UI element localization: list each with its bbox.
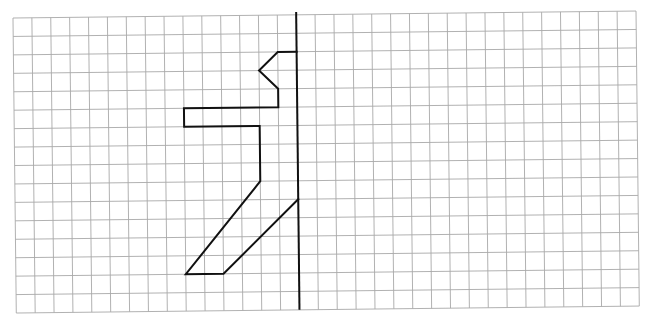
grid-row-line	[14, 140, 637, 147]
grid-paper	[13, 8, 639, 313]
grid-row-line	[13, 29, 636, 36]
grid-row-line	[14, 85, 637, 92]
grid-row-line	[14, 103, 637, 110]
grid-row-line	[13, 48, 636, 55]
grid-row-line	[16, 288, 639, 295]
grid-row-line	[16, 251, 639, 258]
grid-row-line	[14, 122, 637, 129]
grid-row-line	[16, 269, 639, 276]
grid-row-line	[15, 159, 638, 166]
grid-row-line	[13, 11, 636, 18]
square-grid	[13, 11, 639, 313]
grid-row-line	[15, 214, 638, 221]
grid-row-line	[15, 195, 638, 202]
symmetry-worksheet	[0, 0, 657, 325]
grid-row-line	[15, 232, 638, 239]
grid-row-line	[15, 177, 638, 184]
grid-row-line	[14, 66, 637, 73]
grid-row-line	[16, 306, 639, 313]
mirror-axis-line	[296, 12, 299, 310]
